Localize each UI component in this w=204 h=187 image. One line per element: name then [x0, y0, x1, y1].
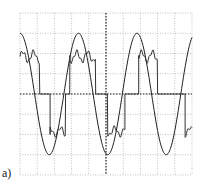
- oscilloscope-plot: [0, 0, 204, 187]
- figure-label: a): [2, 166, 11, 181]
